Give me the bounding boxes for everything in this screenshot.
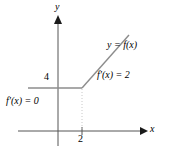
x-axis-label: x [150, 124, 154, 134]
x-tick-label-2: 2 [78, 134, 83, 144]
x-axis-arrowhead [140, 127, 148, 135]
y-axis-label: y [55, 2, 59, 12]
graph-canvas [0, 0, 170, 156]
y-axis-arrowhead [54, 15, 62, 24]
function-graph-figure: y x 4 2 y = f(x) f'(x) = 2 f'(x) = 0 [0, 0, 170, 156]
derivative-label-left: f'(x) = 0 [6, 96, 39, 106]
y-tick-label-4: 4 [44, 72, 49, 82]
function-equation-label: y = f(x) [107, 40, 137, 50]
derivative-label-right: f'(x) = 2 [97, 70, 130, 80]
